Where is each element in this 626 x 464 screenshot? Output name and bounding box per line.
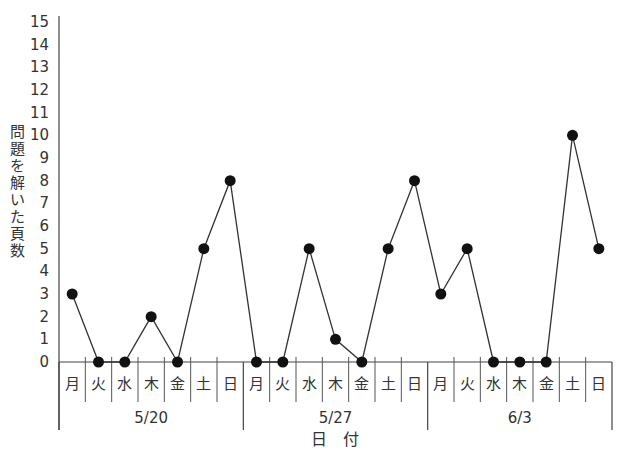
y-axis-title-char: 問: [8, 124, 26, 141]
y-axis: 0123456789101112131415: [30, 13, 59, 430]
x-day-label: 月: [65, 375, 80, 393]
data-point-marker: [67, 289, 78, 300]
y-tick-label: 3: [39, 285, 49, 303]
x-day-label: 木: [144, 375, 159, 393]
x-day-label: 水: [302, 375, 317, 393]
data-point-marker: [567, 130, 578, 141]
data-point-marker: [304, 243, 315, 254]
data-point-marker: [251, 357, 262, 368]
data-point-marker: [593, 243, 604, 254]
data-point-marker: [93, 357, 104, 368]
x-week-label: 5/20: [134, 409, 168, 427]
x-day-label: 日: [591, 375, 606, 393]
data-point-marker: [514, 357, 525, 368]
x-day-label: 月: [249, 375, 264, 393]
data-point-marker: [383, 243, 394, 254]
series-line: [72, 135, 599, 362]
data-point-marker: [488, 357, 499, 368]
x-day-label: 火: [275, 375, 290, 393]
y-tick-label: 11: [30, 104, 49, 122]
x-day-label: 木: [512, 375, 527, 393]
y-tick-label: 9: [39, 149, 49, 167]
data-series: [67, 130, 605, 368]
data-point-marker: [225, 175, 236, 186]
data-point-marker: [409, 175, 420, 186]
x-day-label: 火: [460, 375, 475, 393]
y-axis-title-char: 数: [8, 243, 26, 260]
y-axis-title-char: た: [8, 209, 26, 226]
y-tick-label: 4: [39, 262, 49, 280]
data-point-marker: [541, 357, 552, 368]
x-day-label: 日: [407, 375, 422, 393]
y-tick-label: 0: [39, 353, 49, 371]
data-point-marker: [198, 243, 209, 254]
y-axis-title-char: い: [8, 192, 26, 209]
y-tick-label: 2: [39, 308, 49, 326]
y-axis-title-char: 題: [8, 141, 26, 158]
x-day-label: 土: [196, 375, 211, 393]
data-point-marker: [277, 357, 288, 368]
x-week-label: 5/27: [319, 409, 353, 427]
x-day-label: 金: [539, 375, 554, 393]
y-tick-label: 13: [30, 58, 49, 76]
x-day-label: 月: [433, 375, 448, 393]
data-point-marker: [172, 357, 183, 368]
y-axis-title-char: 解: [8, 175, 26, 192]
y-axis-title-char: 頁: [8, 226, 26, 243]
x-axis-title: 日 付: [311, 430, 359, 449]
x-day-label: 水: [486, 375, 501, 393]
y-tick-label: 1: [39, 330, 49, 348]
x-day-label: 金: [170, 375, 185, 393]
x-day-label: 火: [91, 375, 106, 393]
y-tick-label: 7: [39, 194, 49, 212]
y-tick-label: 6: [39, 217, 49, 235]
y-axis-title: 問題を解いた頁数: [8, 124, 26, 260]
x-day-label: 水: [117, 375, 132, 393]
x-day-label: 木: [328, 375, 343, 393]
x-axis: 月火水木金土日5/20月火水木金土日5/27月火水木金土日6/3: [59, 357, 612, 430]
data-point-marker: [435, 289, 446, 300]
data-point-marker: [119, 357, 130, 368]
y-tick-label: 8: [39, 172, 49, 190]
y-tick-label: 10: [30, 126, 49, 144]
x-day-label: 土: [381, 375, 396, 393]
data-point-marker: [146, 311, 157, 322]
y-tick-label: 12: [30, 81, 49, 99]
line-chart: 0123456789101112131415 月火水木金土日5/20月火水木金土…: [0, 0, 626, 464]
x-day-label: 金: [354, 375, 369, 393]
y-tick-label: 5: [39, 240, 49, 258]
x-week-label: 6/3: [508, 409, 532, 427]
y-tick-label: 14: [30, 36, 49, 54]
data-point-marker: [330, 334, 341, 345]
x-day-label: 日: [223, 375, 238, 393]
x-day-label: 土: [565, 375, 580, 393]
y-axis-title-char: を: [8, 158, 26, 175]
data-point-marker: [356, 357, 367, 368]
y-tick-label: 15: [30, 13, 49, 31]
data-point-marker: [462, 243, 473, 254]
